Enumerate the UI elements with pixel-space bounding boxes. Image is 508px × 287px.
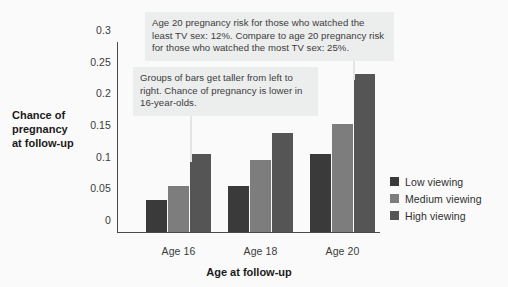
legend-item: Medium viewing	[390, 191, 482, 206]
callout-age20-comparison: Age 20 pregnancy risk for those who watc…	[145, 12, 394, 61]
bar	[272, 133, 293, 232]
callout-trend-description: Groups of bars get taller from left to r…	[133, 67, 318, 116]
legend-item: Low viewing	[390, 174, 482, 189]
legend-label: High viewing	[405, 210, 466, 222]
legend-swatch-icon	[390, 211, 399, 220]
y-axis-title-line-3: at follow-up	[12, 136, 96, 150]
bar	[190, 154, 211, 232]
bar	[332, 124, 353, 232]
bar	[168, 186, 189, 232]
x-axis-title: Age at follow-up	[118, 266, 380, 278]
bar-group	[310, 42, 375, 232]
y-axis-title-line-2: pregnancy	[12, 122, 96, 136]
bar	[310, 154, 331, 232]
y-axis-tick-label: 0	[105, 214, 111, 226]
x-axis-tick-label: Age 16	[134, 245, 224, 257]
bar	[250, 160, 271, 232]
legend-swatch-icon	[390, 177, 399, 186]
bar	[228, 186, 249, 232]
legend-item: High viewing	[390, 208, 482, 223]
callout-leader-line-middle	[190, 114, 192, 162]
y-axis-tick-label: 0.3	[96, 24, 111, 36]
y-axis-tick-label: 0.2	[96, 87, 111, 99]
y-axis-tick-label: 0.1	[96, 151, 111, 163]
bar	[354, 74, 375, 232]
y-axis-tick-label: 0.25	[90, 56, 111, 68]
legend-label: Low viewing	[405, 176, 463, 188]
legend-swatch-icon	[390, 194, 399, 203]
y-axis-title-line-1: Chance of	[12, 108, 96, 122]
x-axis-line	[117, 232, 380, 233]
legend: Low viewingMedium viewingHigh viewing	[390, 174, 482, 225]
y-axis-title: Chance of pregnancy at follow-up	[12, 108, 96, 150]
y-axis-tick-label: 0.05	[90, 182, 111, 194]
legend-label: Medium viewing	[405, 193, 482, 205]
bar-chart: Chance of pregnancy at follow-up 00.050.…	[0, 0, 508, 287]
bar	[146, 200, 167, 232]
x-axis-tick-label: Age 18	[216, 245, 306, 257]
x-axis-tick-label: Age 20	[298, 245, 388, 257]
y-axis-tick-label: 0.15	[90, 119, 111, 131]
